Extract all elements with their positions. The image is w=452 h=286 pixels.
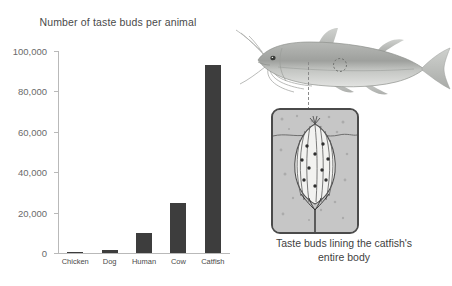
- illustration-panel: Taste buds lining the catfish's entire b…: [236, 0, 452, 286]
- y-tick-mark: 60,000: [54, 132, 58, 133]
- taste-bud-magnified-panel: [271, 108, 359, 234]
- caption-line-2: entire body: [318, 251, 370, 263]
- x-tick-label-human: Human: [132, 257, 156, 266]
- bar-chart-panel: Number of taste buds per animal 020,0004…: [0, 0, 236, 286]
- x-tick-label-dog: Dog: [103, 257, 117, 266]
- y-tick-mark: 0: [54, 253, 58, 254]
- y-tick-mark: 80,000: [54, 91, 58, 92]
- plot-area: 020,00040,00060,00080,000100,000 Chicken…: [58, 51, 230, 254]
- y-tick-label: 80,000: [18, 86, 47, 97]
- x-tick-label-catfish: Catfish: [201, 257, 224, 266]
- bar-catfish: [205, 65, 221, 253]
- infographic-root: Number of taste buds per animal 020,0004…: [0, 0, 452, 286]
- y-tick-label: 40,000: [18, 167, 47, 178]
- y-tick-mark: 20,000: [54, 213, 58, 214]
- y-tick-label: 60,000: [18, 126, 47, 137]
- y-axis-line: [58, 51, 59, 254]
- bar-cow: [170, 203, 186, 254]
- y-tick-label: 100,000: [13, 46, 47, 57]
- bar-chicken: [67, 252, 83, 253]
- bar-human: [136, 233, 152, 253]
- y-tick-label: 0: [42, 248, 47, 259]
- y-tick-mark: 40,000: [54, 172, 58, 173]
- x-tick-label-cow: Cow: [171, 257, 186, 266]
- bar-dog: [102, 250, 118, 253]
- caption-line-1: Taste buds lining the catfish's: [276, 237, 412, 249]
- x-axis-line: [58, 253, 230, 254]
- callout-dashed-line: [308, 62, 309, 110]
- illustration-caption: Taste buds lining the catfish's entire b…: [236, 236, 452, 264]
- catfish-illustration: [232, 22, 452, 112]
- x-tick-label-chicken: Chicken: [62, 257, 89, 266]
- y-tick-mark: 100,000: [54, 51, 58, 52]
- y-tick-label: 20,000: [18, 207, 47, 218]
- chart-title: Number of taste buds per animal: [0, 16, 236, 28]
